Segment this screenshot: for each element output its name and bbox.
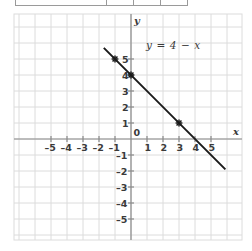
y-axis-tick-label-1: 1 (122, 119, 129, 129)
x-axis-tick-label-0: 0 (134, 128, 141, 138)
x-axis-tick-label-2: 2 (161, 143, 168, 153)
y-axis-tick-label--3: –3 (116, 183, 127, 193)
x-axis-tick-label--3: –3 (77, 143, 88, 153)
y-axis-tick-label--5: –5 (116, 215, 127, 225)
y-axis-name-label: y (134, 16, 140, 26)
equation-annotation: y = 4 − x (146, 40, 201, 51)
y-axis-tick-label--1: –1 (116, 151, 127, 161)
x-axis-name-label: x (233, 127, 239, 137)
y-axis-tick-label-2: 2 (122, 103, 129, 113)
x-axis-tick-label-4: 4 (193, 143, 200, 153)
x-axis-tick-label--4: –4 (61, 143, 72, 153)
x-axis-tick-label-5: 5 (209, 143, 216, 153)
data-point-marker (176, 120, 183, 127)
y-axis-tick-label--2: –2 (116, 167, 127, 177)
x-axis-tick-label-3: 3 (177, 143, 184, 153)
y-axis-tick-label-3: 3 (122, 87, 129, 97)
y-axis-tick-label-4: 4 (122, 71, 129, 81)
y-axis-tick-label--4: –4 (116, 199, 127, 209)
x-axis-tick-label--5: –5 (45, 143, 56, 153)
y-axis-tick-label-5: 5 (122, 55, 129, 65)
x-axis-tick-label-1: 1 (145, 143, 152, 153)
data-point-marker (112, 56, 119, 63)
coordinate-graph: –5–4–3–2–1012345–5–4–3–2–112345yxy = 4 −… (0, 0, 252, 251)
x-axis-tick-label--2: –2 (93, 143, 104, 153)
